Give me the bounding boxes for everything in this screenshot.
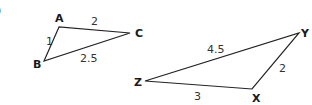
side-label-bc: 2.5 bbox=[80, 52, 98, 65]
triangle-xyz: X Y Z 3 2 4.5 bbox=[134, 27, 310, 105]
side-label-ab: 1 bbox=[46, 35, 53, 48]
problem-marker: ) bbox=[0, 4, 1, 17]
side-label-xy: 2 bbox=[279, 62, 286, 75]
triangle-abc: A B C 1 2 2.5 bbox=[33, 12, 143, 71]
vertex-label-b: B bbox=[33, 58, 41, 71]
vertex-label-c: C bbox=[135, 27, 143, 40]
triangle-diagram: ) A B C 1 2 2.5 X Y Z 3 2 4.5 bbox=[0, 0, 312, 105]
side-label-ac: 2 bbox=[91, 15, 98, 28]
vertex-label-a: A bbox=[55, 12, 64, 25]
side-label-zy: 4.5 bbox=[207, 43, 225, 56]
vertex-label-z: Z bbox=[134, 76, 142, 89]
triangle-xyz-shape bbox=[145, 33, 299, 89]
side-label-zx: 3 bbox=[194, 90, 201, 103]
vertex-label-x: X bbox=[252, 92, 261, 105]
vertex-label-y: Y bbox=[300, 27, 310, 40]
